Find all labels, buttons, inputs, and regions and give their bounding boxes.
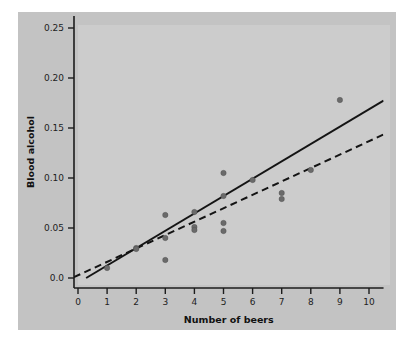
x-axis-tick-label: 7 (279, 297, 285, 307)
y-axis-tick-label: 0.25 (44, 23, 64, 33)
data-point (134, 246, 139, 251)
data-point (221, 193, 226, 198)
data-point (250, 177, 255, 182)
x-axis-tick-label: 0 (75, 297, 81, 307)
dashed-fit-line (63, 135, 383, 283)
y-axis-tick-label: 0.05 (44, 223, 64, 233)
data-point (279, 190, 284, 195)
plot-content (63, 97, 383, 282)
x-axis-title: Number of beers (184, 314, 274, 325)
data-point (104, 265, 109, 270)
data-point (221, 228, 226, 233)
x-axis-tick-label: 9 (337, 297, 343, 307)
data-point (308, 167, 313, 172)
data-point (337, 97, 342, 102)
x-axis-tick-label: 4 (192, 297, 198, 307)
x-axis-tick-label: 2 (133, 297, 139, 307)
data-point (192, 227, 197, 232)
data-point (192, 209, 197, 214)
y-axis-tick-label: 0.15 (44, 123, 64, 133)
x-axis-tick-label: 1 (104, 297, 110, 307)
y-axis-tick-label: 0.10 (44, 173, 64, 183)
x-axis-tick-label: 8 (308, 297, 314, 307)
x-axis-tick-label: 6 (250, 297, 256, 307)
scatter-plot: 0.00.050.100.150.200.25012345678910Numbe… (0, 0, 412, 350)
x-axis-tick-label: 3 (162, 297, 168, 307)
data-point (163, 257, 168, 262)
data-point (221, 220, 226, 225)
x-axis-tick-label: 5 (221, 297, 227, 307)
data-point (279, 196, 284, 201)
data-point (163, 235, 168, 240)
chart-figure: 0.00.050.100.150.200.25012345678910Numbe… (0, 0, 412, 350)
y-axis-tick-label: 0.20 (44, 73, 64, 83)
x-axis-tick-label: 10 (363, 297, 375, 307)
y-axis-tick-label: 0.0 (50, 273, 65, 283)
data-point (163, 212, 168, 217)
data-point (221, 170, 226, 175)
y-axis-title: Blood alcohol (25, 116, 36, 188)
